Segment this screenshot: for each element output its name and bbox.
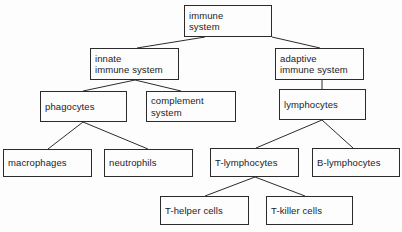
node-label: complement system (151, 95, 204, 118)
node-complement-system[interactable]: complement system (146, 91, 236, 122)
node-innate-immune-system[interactable]: innate immune system (90, 48, 179, 80)
node-label: immune system (189, 10, 223, 33)
edge-innate-immune-system-to-phagocytes (83, 80, 135, 91)
edge-lymphocytes-to-b-lymphocytes (322, 120, 353, 148)
node-lymphocytes[interactable]: lymphocytes (279, 89, 366, 120)
immune-system-diagram: immune systeminnate immune systemadaptiv… (0, 0, 402, 232)
edge-phagocytes-to-macrophages (48, 122, 83, 149)
node-label: innate immune system (95, 53, 163, 76)
edge-immune-system-to-adaptive-immune-system (272, 37, 320, 48)
node-label: phagocytes (45, 101, 95, 113)
node-phagocytes[interactable]: phagocytes (40, 91, 127, 122)
node-neutrophils[interactable]: neutrophils (104, 149, 193, 177)
node-b-lymphocytes[interactable]: B-lymphocytes (312, 148, 400, 177)
node-label: T-helper cells (165, 205, 223, 217)
edge-lymphocytes-to-t-lymphocytes (256, 120, 322, 148)
node-adaptive-immune-system[interactable]: adaptive immune system (275, 48, 364, 80)
edge-t-lymphocytes-to-t-killer-cells (255, 177, 305, 196)
node-label: lymphocytes (284, 99, 338, 111)
node-label: adaptive immune system (280, 53, 348, 76)
node-label: T-killer cells (271, 205, 322, 217)
edge-immune-system-to-innate-immune-system (137, 37, 205, 48)
edge-phagocytes-to-neutrophils (83, 122, 148, 149)
node-label: macrophages (8, 157, 67, 169)
node-t-killer-cells[interactable]: T-killer cells (266, 196, 353, 225)
node-label: neutrophils (109, 157, 157, 169)
node-macrophages[interactable]: macrophages (3, 149, 92, 177)
edge-t-lymphocytes-to-t-helper-cells (205, 177, 255, 196)
node-label: T-lymphocytes (215, 157, 278, 169)
node-t-helper-cells[interactable]: T-helper cells (160, 196, 249, 225)
node-t-lymphocytes[interactable]: T-lymphocytes (210, 148, 299, 177)
edge-innate-immune-system-to-complement-system (135, 80, 181, 91)
node-label: B-lymphocytes (317, 157, 381, 169)
node-immune-system[interactable]: immune system (184, 5, 272, 37)
